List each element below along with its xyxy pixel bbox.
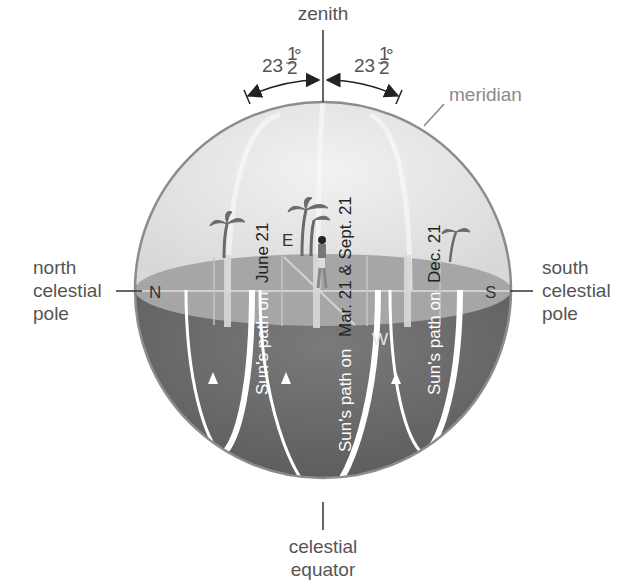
meridian-leader (424, 104, 444, 126)
sun-path-label-equinox: Sun's path on (336, 349, 355, 452)
svg-text:pole: pole (33, 303, 69, 324)
celestial-equator-label: celestial equator (289, 536, 358, 580)
angle-label-right: 23 1 2 ° (354, 43, 394, 78)
sun-path-label-june: Sun's path on (253, 292, 272, 395)
direction-north: N (149, 283, 161, 302)
south-celestial-pole-label: south celestial pole (542, 257, 611, 324)
direction-south: S (485, 283, 496, 302)
svg-text:equator: equator (291, 559, 356, 580)
angle-label-left: 23 1 2 ° (262, 43, 302, 78)
svg-text:°: ° (386, 45, 394, 66)
svg-text:°: ° (294, 45, 302, 66)
svg-text:south: south (542, 257, 588, 278)
meridian-label: meridian (449, 84, 522, 105)
zenith-label: zenith (298, 3, 349, 24)
north-celestial-pole-label: north celestial pole (33, 257, 102, 324)
svg-text:celestial: celestial (542, 280, 611, 301)
direction-west: W (372, 330, 388, 349)
sun-path-label-december: Sun's path on (425, 292, 444, 395)
direction-east: E (282, 231, 293, 250)
svg-text:north: north (33, 257, 76, 278)
svg-text:23: 23 (262, 55, 283, 76)
svg-text:23: 23 (354, 55, 375, 76)
sun-path-label-june-date: June 21 (253, 223, 272, 284)
svg-text:celestial: celestial (289, 536, 358, 557)
sun-path-label-december-date: Dec. 21 (425, 224, 444, 283)
sun-path-label-equinox-date: Mar. 21 & Sept. 21 (336, 196, 355, 337)
celestial-sphere-diagram: zenith 23 1 2 ° 23 1 2 ° meridian north … (0, 0, 639, 585)
svg-text:pole: pole (542, 303, 578, 324)
svg-text:celestial: celestial (33, 280, 102, 301)
